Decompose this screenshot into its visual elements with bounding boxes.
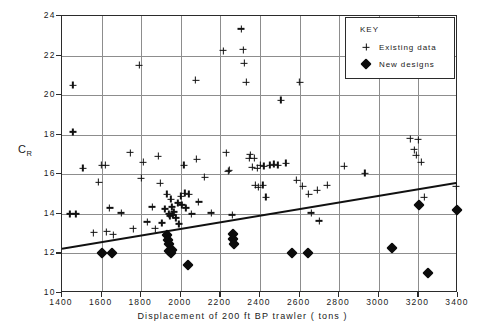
x-axis-tick-label: 1600 xyxy=(89,297,112,307)
data-point-existing xyxy=(106,204,113,211)
data-point-existing xyxy=(201,174,208,181)
data-point-existing xyxy=(110,231,117,238)
data-point-existing xyxy=(241,60,248,67)
data-point-existing xyxy=(90,229,97,236)
data-point-existing xyxy=(155,153,162,160)
y-axis-tick-label: 22 xyxy=(44,50,56,60)
data-point-existing xyxy=(415,136,422,143)
data-point-existing xyxy=(167,196,174,203)
data-point-new-design xyxy=(182,260,193,271)
data-point-existing xyxy=(193,156,200,163)
x-axis-tick-label: 2600 xyxy=(287,297,310,307)
x-axis-tick-mark xyxy=(299,292,300,297)
legend-entry-existing-data: Existing data xyxy=(360,40,437,54)
y-axis-tick-mark xyxy=(56,134,61,135)
x-axis-tick-mark xyxy=(457,292,458,297)
data-point-existing xyxy=(243,79,250,86)
data-point-existing xyxy=(138,175,145,182)
y-axis-tick-mark xyxy=(56,55,61,56)
y-axis-tick-label: 16 xyxy=(44,168,56,178)
data-point-existing xyxy=(226,167,233,174)
diamond-marker-icon xyxy=(360,58,372,70)
data-point-existing xyxy=(95,179,102,186)
data-point-existing xyxy=(140,159,147,166)
data-point-existing xyxy=(341,163,348,170)
data-point-existing xyxy=(158,219,165,226)
y-axis-tick-mark xyxy=(56,213,61,214)
x-axis-tick-mark xyxy=(338,292,339,297)
legend-label-existing-data: Existing data xyxy=(379,43,437,52)
data-point-existing xyxy=(195,198,202,205)
y-axis-tick-mark xyxy=(56,173,61,174)
y-axis-title-subscript: R xyxy=(26,149,31,158)
data-point-new-design xyxy=(386,243,397,254)
x-axis-tick-mark xyxy=(180,292,181,297)
x-axis-tick-mark xyxy=(61,292,62,297)
y-axis-tick-label: 18 xyxy=(44,129,56,139)
data-point-existing xyxy=(180,162,187,169)
y-axis-tick-label: 24 xyxy=(44,10,56,20)
y-axis-tick-mark xyxy=(56,15,61,16)
chart-legend: KEY Existing data New designs xyxy=(345,17,455,79)
data-point-existing xyxy=(152,225,159,232)
x-axis-tick-label: 3000 xyxy=(366,297,389,307)
data-point-existing xyxy=(136,62,143,69)
data-point-new-design xyxy=(96,248,107,259)
x-axis-tick-label: 2400 xyxy=(247,297,270,307)
data-point-existing xyxy=(314,187,321,194)
y-axis-tick-mark xyxy=(56,94,61,95)
data-point-existing xyxy=(296,79,303,86)
data-point-existing xyxy=(192,77,199,84)
x-axis-tick-label: 2800 xyxy=(327,297,350,307)
x-axis-tick-label: 1800 xyxy=(129,297,152,307)
data-point-existing xyxy=(259,182,266,189)
data-point-new-design xyxy=(414,199,425,210)
x-axis-tick-mark xyxy=(417,292,418,297)
y-axis-title: CR xyxy=(18,143,32,158)
data-point-existing xyxy=(305,191,312,198)
data-point-existing xyxy=(79,165,86,172)
data-point-existing xyxy=(262,194,269,201)
data-point-existing xyxy=(127,149,134,156)
data-point-existing xyxy=(324,182,331,189)
data-point-existing xyxy=(102,162,109,169)
data-point-new-design xyxy=(302,248,313,259)
data-point-existing xyxy=(418,159,425,166)
data-point-existing xyxy=(229,211,236,218)
data-point-existing xyxy=(238,25,245,32)
legend-title: KEY xyxy=(360,25,379,34)
plus-marker-icon xyxy=(360,41,372,53)
x-axis-title: Displacement of 200 ft BP trawler ( tons… xyxy=(0,311,485,321)
data-point-new-design xyxy=(423,268,434,279)
data-point-existing xyxy=(421,194,428,201)
x-axis-tick-mark xyxy=(219,292,220,297)
x-axis-tick-label: 2000 xyxy=(168,297,191,307)
data-point-new-design xyxy=(106,248,117,259)
x-axis-tick-label: 2200 xyxy=(208,297,231,307)
x-axis-tick-label: 3400 xyxy=(445,297,468,307)
data-point-existing xyxy=(453,183,460,190)
x-axis-tick-label: 1400 xyxy=(49,297,72,307)
data-point-existing xyxy=(157,180,164,187)
data-point-existing xyxy=(240,46,247,53)
x-axis-tick-mark xyxy=(140,292,141,297)
data-point-existing xyxy=(185,191,192,198)
data-point-existing xyxy=(130,225,137,232)
data-point-new-design xyxy=(451,204,462,215)
data-point-existing xyxy=(308,209,315,216)
x-axis-tick-mark xyxy=(378,292,379,297)
data-point-existing xyxy=(316,217,323,224)
scatter-chart-figure: 1012141618202224 CR Displacement of 200 … xyxy=(0,0,485,336)
data-point-existing xyxy=(149,203,156,210)
data-point-existing xyxy=(407,135,414,142)
y-axis-tick-label: 20 xyxy=(44,89,56,99)
y-axis-tick-label: 14 xyxy=(44,208,56,218)
data-point-existing xyxy=(223,149,230,156)
legend-label-new-designs: New designs xyxy=(379,60,435,69)
data-point-existing xyxy=(361,170,368,177)
data-point-existing xyxy=(188,210,195,217)
data-point-existing xyxy=(282,160,289,167)
data-point-existing xyxy=(72,210,79,217)
data-point-existing xyxy=(118,209,125,216)
x-axis-tick-mark xyxy=(259,292,260,297)
